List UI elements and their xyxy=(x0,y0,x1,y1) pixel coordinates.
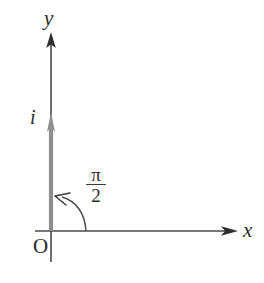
figure-canvas: y x i O π 2 xyxy=(0,0,264,283)
origin-label: O xyxy=(33,236,48,257)
y-axis-label: y xyxy=(44,8,53,29)
x-axis-label: x xyxy=(243,220,252,241)
angle-label-pi-over-two: π 2 xyxy=(84,166,108,205)
angle-numerator: π xyxy=(84,166,108,183)
angle-denominator: 2 xyxy=(84,186,108,205)
vector-i-label: i xyxy=(30,107,36,127)
angle-arc xyxy=(62,197,86,231)
